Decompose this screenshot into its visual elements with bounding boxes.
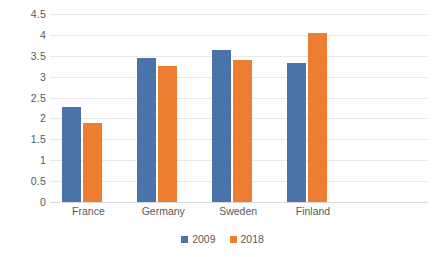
bar-finland-2018[interactable] — [308, 33, 327, 202]
x-tick-label-germany: Germany — [121, 205, 206, 217]
y-tick-label: 1.5 — [0, 134, 46, 145]
legend-label: 2009 — [192, 234, 215, 245]
bar-group — [133, 14, 208, 202]
y-tick-label: 3 — [0, 72, 46, 83]
y-tick-label: 1 — [0, 155, 46, 166]
bar-germany-2018[interactable] — [158, 66, 177, 202]
bar-group — [283, 14, 358, 202]
y-tick-label: 0.5 — [0, 176, 46, 187]
bar-group — [58, 14, 133, 202]
y-tick-label: 2 — [0, 113, 46, 124]
y-axis: 00.511.522.533.544.5 — [0, 0, 46, 210]
bar-group — [208, 14, 283, 202]
bar-finland-2009[interactable] — [287, 63, 306, 202]
y-tick-label: 3.5 — [0, 51, 46, 62]
legend-label: 2018 — [241, 234, 264, 245]
y-tick-label: 0 — [0, 197, 46, 208]
x-tick-label-france: France — [46, 205, 131, 217]
legend-item-2018[interactable]: 2018 — [230, 234, 264, 245]
bar-sweden-2018[interactable] — [233, 60, 252, 202]
bar-france-2009[interactable] — [62, 107, 81, 202]
bar-france-2018[interactable] — [83, 123, 102, 202]
x-axis: FranceGermanySwedenFinland — [50, 205, 428, 223]
bar-germany-2009[interactable] — [137, 58, 156, 202]
bar-chart: 00.511.522.533.544.5 FranceGermanySweden… — [0, 0, 445, 257]
y-tick-label: 4 — [0, 30, 46, 41]
bar-sweden-2009[interactable] — [212, 50, 231, 202]
chart-legend: 20092018 — [0, 234, 445, 245]
plot-area — [50, 14, 428, 202]
gridline — [50, 202, 428, 203]
y-tick-label: 2.5 — [0, 93, 46, 104]
x-tick-label-finland: Finland — [271, 205, 356, 217]
legend-item-2009[interactable]: 2009 — [181, 234, 215, 245]
bars-layer — [50, 14, 428, 202]
y-tick-label: 4.5 — [0, 9, 46, 20]
x-tick-label-sweden: Sweden — [196, 205, 281, 217]
legend-swatch-icon — [230, 236, 237, 243]
legend-swatch-icon — [181, 236, 188, 243]
